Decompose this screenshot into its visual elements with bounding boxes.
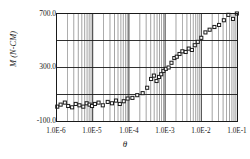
x-axis-tick-label: 1.0E-1 [217, 127, 250, 135]
y-axis-tick-label: 700.0 [10, 10, 56, 18]
y-axis-tick-label: 300.0 [10, 63, 56, 71]
plot-area [0, 0, 250, 159]
x-axis-tick-label: 1.0E-3 [145, 127, 185, 135]
x-axis-tick-label: 1.0E-4 [109, 127, 149, 135]
chart-figure: M (N-CM) 700.0 300.0 -100.0 1.0E-6 1.0E-… [0, 0, 250, 159]
x-axis-tick-label: 1.0E-5 [72, 127, 112, 135]
x-axis-tick-label: 1.0E-6 [36, 127, 76, 135]
x-axis-tick-label: 1.0E-2 [181, 127, 221, 135]
y-axis-tick-label: -100.0 [10, 117, 56, 125]
x-axis-label: θ [0, 139, 250, 149]
y-axis-label: M (N-CM) [8, 14, 18, 84]
